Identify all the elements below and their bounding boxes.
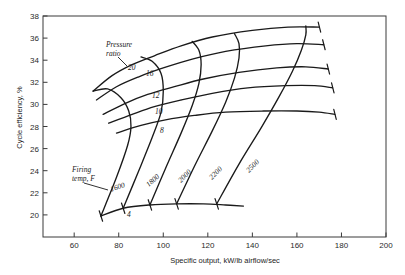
- svg-text:30: 30: [30, 100, 39, 109]
- chart-background: [0, 0, 405, 275]
- svg-text:28: 28: [30, 123, 39, 132]
- svg-text:22: 22: [30, 189, 39, 198]
- svg-text:32: 32: [30, 78, 39, 87]
- svg-text:140: 140: [246, 241, 260, 250]
- svg-text:38: 38: [30, 12, 39, 21]
- svg-text:80: 80: [114, 241, 123, 250]
- chart-page: 6080100120140160180200202224262830323436…: [0, 0, 405, 275]
- svg-text:200: 200: [379, 241, 393, 250]
- svg-text:36: 36: [30, 34, 39, 43]
- svg-text:26: 26: [30, 145, 39, 154]
- svg-text:160: 160: [290, 241, 304, 250]
- svg-text:20: 20: [30, 211, 39, 220]
- svg-text:60: 60: [70, 241, 79, 250]
- svg-text:120: 120: [201, 241, 215, 250]
- svg-text:100: 100: [157, 241, 171, 250]
- cycle-efficiency-chart: 6080100120140160180200202224262830323436…: [0, 0, 405, 275]
- svg-text:34: 34: [30, 56, 39, 65]
- svg-text:180: 180: [335, 241, 349, 250]
- svg-text:24: 24: [30, 167, 39, 176]
